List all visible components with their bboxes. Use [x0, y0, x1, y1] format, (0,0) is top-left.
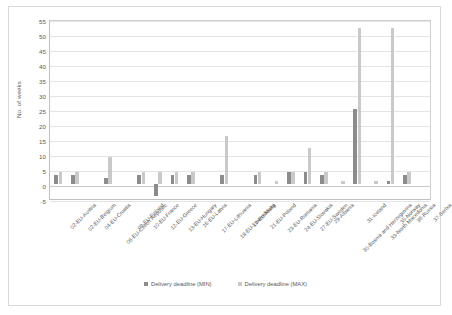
bar — [403, 175, 407, 184]
bar — [287, 172, 291, 184]
bar-group — [116, 21, 133, 199]
bar — [304, 172, 308, 184]
bar — [154, 184, 158, 196]
bar — [391, 28, 395, 184]
bar-group — [283, 21, 300, 199]
bar-group — [67, 21, 84, 199]
y-axis-title: No. of weeks — [15, 60, 22, 140]
chart-legend: Delivery deadline (MIN)Delivery deadline… — [0, 281, 451, 287]
bar-group — [399, 21, 416, 199]
bar — [104, 178, 108, 184]
bar-group — [183, 21, 200, 199]
bar — [54, 175, 58, 184]
bar — [254, 175, 258, 184]
bar — [225, 136, 229, 184]
bar-group — [316, 21, 333, 199]
bar-group — [216, 21, 233, 199]
bar — [407, 172, 411, 184]
bar-group — [50, 21, 67, 199]
bar — [374, 181, 378, 184]
legend-item[interactable]: Delivery deadline (MIN) — [144, 281, 212, 287]
bar — [358, 28, 362, 184]
bar — [71, 175, 75, 184]
legend-swatch-icon — [238, 282, 242, 286]
legend-item[interactable]: Delivery deadline (MAX) — [238, 281, 308, 287]
x-axis-tick-label: 31-Iceland — [366, 202, 388, 224]
bar-group — [249, 21, 266, 199]
bar — [320, 175, 324, 184]
plot-area: -50510152025303540455055 — [49, 20, 431, 200]
bar — [75, 172, 79, 184]
bar-group — [133, 21, 150, 199]
bar — [108, 157, 112, 184]
bar — [353, 109, 357, 184]
bar-group — [415, 21, 432, 199]
legend-label: Delivery deadline (MIN) — [151, 281, 212, 287]
bar — [59, 172, 63, 184]
bar — [341, 181, 345, 184]
bar-group — [100, 21, 117, 199]
bar-group — [332, 21, 349, 199]
bar-group — [349, 21, 366, 199]
bars-layer — [50, 21, 430, 199]
bar-group — [166, 21, 183, 199]
bar — [142, 172, 146, 184]
bar-group — [199, 21, 216, 199]
bar-group — [382, 21, 399, 199]
legend-swatch-icon — [144, 282, 148, 286]
bar-group — [299, 21, 316, 199]
bar — [158, 172, 162, 184]
bar — [220, 175, 224, 184]
bar — [308, 148, 312, 184]
bar — [258, 172, 262, 184]
bar — [175, 172, 179, 184]
legend-label: Delivery deadline (MAX) — [245, 281, 308, 287]
bar — [137, 175, 141, 184]
bar-group — [83, 21, 100, 199]
bar-group — [366, 21, 383, 199]
x-axis-labels: 02-EU-Austria02-EU-Belgium04-EU-Croatia0… — [49, 202, 431, 274]
bar — [187, 175, 191, 184]
bar — [275, 181, 279, 184]
bar-group — [266, 21, 283, 199]
bar — [324, 172, 328, 184]
bar — [387, 181, 391, 184]
bar — [171, 175, 175, 184]
bar — [291, 172, 295, 184]
bar-group — [233, 21, 250, 199]
bar — [191, 172, 195, 184]
bar-group — [150, 21, 167, 199]
